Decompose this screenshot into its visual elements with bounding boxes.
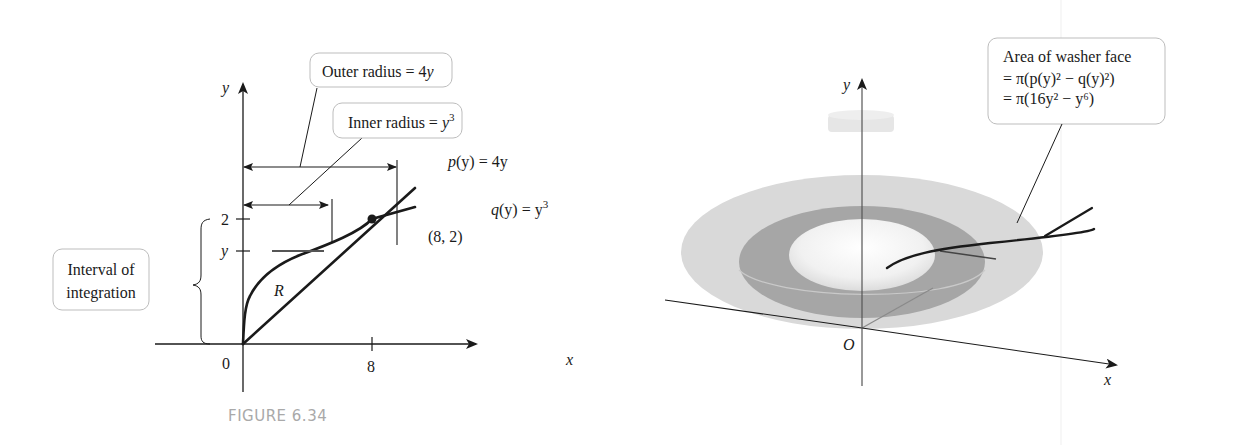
inner-radius-text: Inner radius = bbox=[348, 114, 442, 131]
curve-p bbox=[243, 188, 415, 344]
figure-right: Area of washer face = π(p(y)² − q(y)²) =… bbox=[665, 0, 1165, 445]
y-axis-label: y bbox=[220, 79, 230, 97]
washer-callout-line2: = π(p(y)² − q(y)²) bbox=[1003, 70, 1115, 88]
x-tick-label-8: 8 bbox=[367, 358, 375, 375]
y-tick-label-y: y bbox=[219, 242, 229, 260]
x-axis-3d bbox=[862, 328, 1116, 365]
interval-text-line1: Interval of bbox=[67, 261, 135, 278]
q-label-exp: 3 bbox=[543, 198, 549, 210]
q-label-rest: (y) = y bbox=[499, 201, 543, 219]
x-axis-label: x bbox=[565, 351, 573, 368]
curve-q bbox=[243, 207, 415, 344]
intersection-label: (8, 2) bbox=[428, 228, 463, 246]
interval-text-line2: integration bbox=[66, 284, 135, 302]
figure-left: Outer radius = 4y Inner radius = y3 Inte… bbox=[53, 53, 573, 425]
origin-label: 0 bbox=[222, 355, 230, 372]
p-label-rest: (y) = 4y bbox=[456, 153, 508, 171]
svg-text:Inner radius = y3: Inner radius = y3 bbox=[348, 111, 455, 132]
outer-callout-leader bbox=[300, 88, 317, 167]
y-axis-3d-label: y bbox=[841, 76, 851, 94]
interval-brace bbox=[193, 219, 210, 344]
svg-text:q(y) = y3: q(y) = y3 bbox=[491, 198, 549, 219]
p-label-fn: p bbox=[447, 153, 456, 171]
origin-3d-label: O bbox=[843, 336, 855, 353]
q-label-fn: q bbox=[491, 201, 499, 219]
washer-callout-line3: = π(16y² − y⁶) bbox=[1003, 90, 1094, 108]
rotation-arrow-icon bbox=[828, 110, 894, 132]
y-tick-label-2: 2 bbox=[221, 211, 229, 228]
region-label: R bbox=[273, 282, 284, 299]
figure-caption: FIGURE 6.34 bbox=[228, 407, 327, 425]
washer-callout-line1: Area of washer face bbox=[1003, 48, 1131, 65]
outer-radius-var: y bbox=[425, 63, 435, 81]
inner-radius-exp: 3 bbox=[449, 111, 455, 123]
svg-text:p(y) = 4y: p(y) = 4y bbox=[447, 153, 508, 171]
svg-text:Outer radius = 4y: Outer radius = 4y bbox=[322, 63, 435, 81]
washer-callout-leader bbox=[1017, 124, 1062, 223]
inner-callout-leader bbox=[289, 138, 362, 205]
intersection-point bbox=[368, 215, 377, 224]
outer-radius-text: Outer radius = 4 bbox=[322, 63, 427, 80]
x-axis-3d-label: x bbox=[1103, 371, 1111, 388]
